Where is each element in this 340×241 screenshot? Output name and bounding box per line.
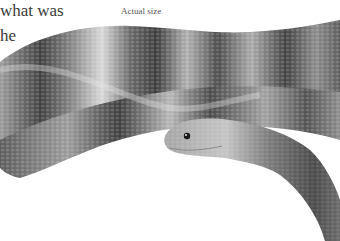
figure-caption: Actual size [121, 6, 161, 16]
body-text-line: he [0, 27, 16, 44]
body-text-line: what was [0, 2, 64, 19]
snake-photograph [0, 0, 340, 241]
